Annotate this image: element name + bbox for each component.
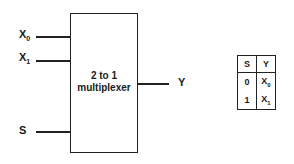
cell-y: X0 [257,73,276,92]
multiplexer-label-line1: 2 to 1 [70,70,138,82]
cell-s: 1 [238,91,257,110]
truth-table-row: 1 X1 [238,91,276,110]
multiplexer-label-line2: multiplexer [70,82,138,94]
output-y-label: Y [178,76,185,88]
header-y: Y [257,56,276,73]
input-x1-wire [36,60,71,62]
truth-table-header: S Y [238,56,276,73]
input-x1-label: X1 [19,51,30,65]
input-x0-wire [36,36,71,38]
input-s-label: S [19,124,26,136]
cell-s: 0 [238,73,257,92]
truth-table: S Y 0 X0 1 X1 [237,55,276,110]
header-s: S [238,56,257,73]
cell-y: X1 [257,91,276,110]
input-s-wire [36,131,71,133]
truth-table-row: 0 X0 [238,73,276,92]
input-x0-label: X0 [19,28,30,42]
output-y-wire [137,83,169,85]
multiplexer-label: 2 to 1 multiplexer [70,70,138,94]
